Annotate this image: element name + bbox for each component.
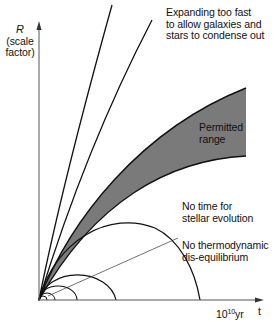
tick-exponent: 10 (227, 308, 235, 315)
expanding-too-fast-note: Expanding too fast to allow galaxies and… (166, 7, 264, 42)
scale-factor-diagram (0, 0, 277, 322)
permitted-range-band (39, 88, 246, 300)
r-axis-symbol: R (0, 24, 40, 36)
expanding-line-3: stars to condense out (166, 30, 264, 42)
r-axis-label: R (scale factor) (0, 24, 40, 59)
t-axis-symbol: t (258, 306, 261, 318)
t-axis-tick-label: 1010yr (216, 306, 244, 321)
tick-unit: yr (235, 308, 244, 320)
no-thermodynamic-note: No thermodynamic dis-equilibrium (182, 240, 269, 263)
fast-expansion-curve-1 (39, 5, 112, 300)
thermo-line-1: No thermodynamic (182, 240, 269, 252)
expanding-line-1: Expanding too fast (166, 7, 264, 19)
stellar-line-1: No time for (182, 201, 253, 213)
thermo-line-2: dis-equilibrium (182, 252, 269, 264)
no-stellar-evolution-note: No time for stellar evolution (182, 201, 253, 224)
stellar-line-2: stellar evolution (182, 213, 253, 225)
t-axis-arrow-icon (255, 298, 264, 303)
permitted-line-1: Permitted (199, 122, 243, 134)
permitted-range-label: Permitted range (199, 122, 243, 145)
tick-base: 10 (216, 308, 227, 320)
permitted-line-2: range (199, 134, 243, 146)
r-axis-label-line2: factor) (0, 47, 40, 59)
